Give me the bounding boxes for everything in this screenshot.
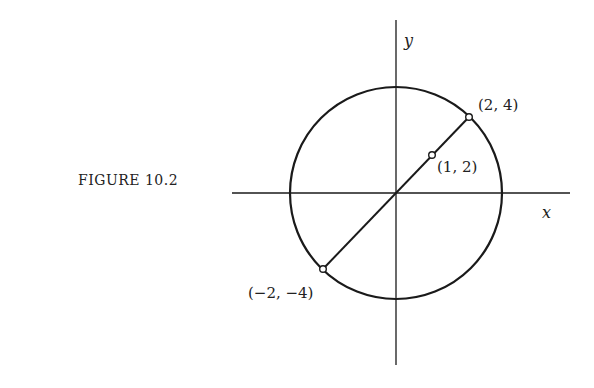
point-label-2-4: (2, 4)	[478, 96, 518, 114]
point-neg2-neg4	[320, 266, 327, 273]
circle-diagram: y x (2, 4) (1, 2) (−2, −4)	[0, 0, 594, 388]
y-axis-label: y	[403, 31, 414, 50]
point-2-4	[466, 114, 473, 121]
point-label-1-2: (1, 2)	[437, 158, 477, 176]
point-1-2	[429, 152, 436, 159]
x-axis-label: x	[542, 203, 551, 222]
point-label-neg2-neg4: (−2, −4)	[248, 284, 313, 302]
